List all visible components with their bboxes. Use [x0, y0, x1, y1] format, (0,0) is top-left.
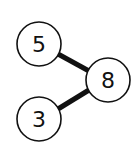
node-part-top: 5 [17, 22, 61, 66]
edge-bottom-to-whole [58, 90, 89, 109]
node-label-top: 5 [32, 32, 46, 57]
node-whole: 8 [86, 58, 130, 102]
node-label-whole: 8 [101, 68, 115, 93]
diagram-svg: 5 8 3 [0, 0, 140, 156]
node-part-bottom: 3 [17, 97, 61, 141]
edge-top-to-whole [58, 54, 89, 71]
number-bond-diagram: 5 8 3 [0, 0, 140, 156]
node-label-bottom: 3 [32, 107, 46, 132]
